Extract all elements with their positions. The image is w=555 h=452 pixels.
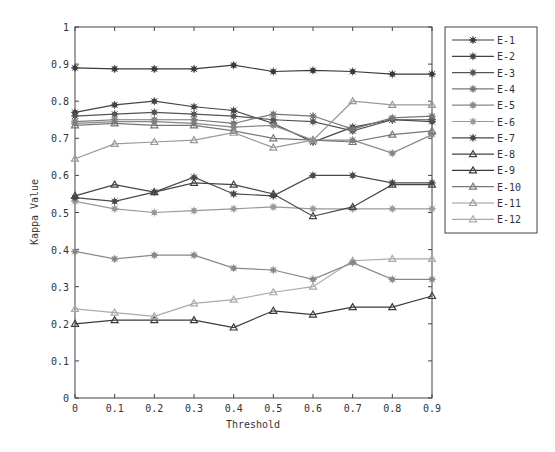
- legend-box: [445, 27, 537, 233]
- star-marker-icon: [388, 114, 396, 122]
- star-marker-icon: [309, 275, 317, 283]
- legend: E-1E-2E-3E-4E-5E-6E-7E-8E-9E-10E-11E-12: [445, 27, 537, 233]
- y-tick-label: 0.8: [51, 96, 69, 107]
- line-chart: 00.10.20.30.40.50.60.70.80.91 00.10.20.3…: [0, 0, 555, 452]
- x-tick-label: 0.5: [264, 403, 282, 414]
- star-marker-icon: [349, 259, 357, 267]
- y-tick-label: 0.3: [51, 282, 69, 293]
- star-marker-icon: [150, 65, 158, 73]
- star-marker-icon: [230, 264, 238, 272]
- star-marker-icon: [230, 205, 238, 213]
- star-marker-icon: [309, 112, 317, 120]
- plot-area: [75, 27, 432, 398]
- star-marker-icon: [469, 101, 477, 109]
- star-marker-icon: [388, 275, 396, 283]
- star-marker-icon: [428, 112, 436, 120]
- star-marker-icon: [388, 205, 396, 213]
- x-tick-label: 0.3: [185, 403, 203, 414]
- star-marker-icon: [190, 251, 198, 259]
- star-marker-icon: [230, 61, 238, 69]
- y-tick-label: 0.4: [51, 245, 69, 256]
- star-marker-icon: [190, 103, 198, 111]
- legend-label: E-7: [497, 133, 515, 144]
- star-marker-icon: [469, 118, 477, 126]
- legend-label: E-10: [497, 182, 521, 193]
- star-marker-icon: [150, 97, 158, 105]
- star-marker-icon: [469, 85, 477, 93]
- y-tick-label: 0.9: [51, 59, 69, 70]
- y-tick-label: 0.7: [51, 133, 69, 144]
- star-marker-icon: [150, 108, 158, 116]
- star-marker-icon: [349, 125, 357, 133]
- legend-label: E-3: [497, 68, 515, 79]
- star-marker-icon: [309, 66, 317, 74]
- star-marker-icon: [349, 68, 357, 76]
- star-marker-icon: [71, 64, 79, 72]
- legend-label: E-2: [497, 51, 515, 62]
- x-tick-label: 0.1: [106, 403, 124, 414]
- star-marker-icon: [111, 197, 119, 205]
- y-tick-label: 0.1: [51, 356, 69, 367]
- star-marker-icon: [150, 209, 158, 217]
- y-tick-label: 0: [63, 393, 69, 404]
- star-marker-icon: [309, 171, 317, 179]
- legend-label: E-11: [497, 198, 521, 209]
- y-tick-label: 0.5: [51, 208, 69, 219]
- star-marker-icon: [269, 121, 277, 129]
- legend-label: E-5: [497, 100, 515, 111]
- star-marker-icon: [428, 275, 436, 283]
- y-tick-label: 0.2: [51, 319, 69, 330]
- star-marker-icon: [269, 266, 277, 274]
- star-marker-icon: [150, 251, 158, 259]
- star-marker-icon: [269, 203, 277, 211]
- x-tick-label: 0.9: [423, 403, 441, 414]
- x-tick-label: 0.7: [344, 403, 362, 414]
- x-axis-label: Threshold: [226, 419, 280, 430]
- star-marker-icon: [111, 205, 119, 213]
- legend-label: E-1: [497, 35, 515, 46]
- star-marker-icon: [230, 190, 238, 198]
- x-tick-label: 0.2: [145, 403, 163, 414]
- star-marker-icon: [469, 36, 477, 44]
- star-marker-icon: [469, 134, 477, 142]
- star-marker-icon: [190, 207, 198, 215]
- star-marker-icon: [269, 68, 277, 76]
- legend-label: E-9: [497, 165, 515, 176]
- x-tick-label: 0: [72, 403, 78, 414]
- star-marker-icon: [269, 110, 277, 118]
- star-marker-icon: [388, 70, 396, 78]
- star-marker-icon: [71, 247, 79, 255]
- legend-label: E-12: [497, 214, 521, 225]
- x-tick-label: 0.8: [383, 403, 401, 414]
- star-marker-icon: [469, 52, 477, 60]
- star-marker-icon: [190, 65, 198, 73]
- star-marker-icon: [111, 65, 119, 73]
- star-marker-icon: [111, 255, 119, 263]
- legend-label: E-6: [497, 117, 515, 128]
- legend-label: E-8: [497, 149, 515, 160]
- y-tick-label: 0.6: [51, 170, 69, 181]
- star-marker-icon: [388, 149, 396, 157]
- legend-label: E-4: [497, 84, 515, 95]
- star-marker-icon: [469, 69, 477, 77]
- y-tick-label: 1: [63, 22, 69, 33]
- star-marker-icon: [349, 171, 357, 179]
- star-marker-icon: [428, 205, 436, 213]
- star-marker-icon: [230, 112, 238, 120]
- y-axis-label: Kappa Value: [29, 179, 40, 245]
- x-tick-label: 0.4: [225, 403, 243, 414]
- star-marker-icon: [428, 70, 436, 78]
- x-tick-label: 0.6: [304, 403, 322, 414]
- star-marker-icon: [111, 101, 119, 109]
